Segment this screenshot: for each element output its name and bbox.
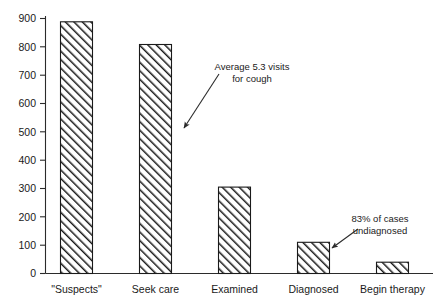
cat-label-diagnosed: Diagnosed — [288, 283, 338, 295]
y-axis-ticks — [40, 19, 46, 274]
y-tick-label-200: 200 — [18, 211, 36, 223]
y-axis-tick-labels: 900 800 700 600 500 400 300 200 100 0 — [18, 12, 36, 279]
cat-label-suspects: "Suspects" — [51, 283, 102, 295]
y-tick-label-400: 400 — [18, 154, 36, 166]
bar-examined[interactable] — [219, 187, 251, 273]
annotation-undiagnosed: 83% of cases undiagnosed — [332, 213, 409, 248]
annotation-undiagnosed-arrow — [332, 229, 358, 248]
cat-label-seek-care: Seek care — [132, 283, 179, 295]
x-axis-category-labels: "Suspects" Seek care Examined Diagnosed … — [51, 283, 425, 295]
annotation-undiagnosed-line2: undiagnosed — [353, 225, 407, 236]
y-tick-label-100: 100 — [18, 239, 36, 251]
bar-diagnosed[interactable] — [298, 242, 330, 273]
bar-chart: 900 800 700 600 500 400 300 200 100 0 "S… — [0, 0, 440, 308]
annotation-avg-visits-line1: Average 5.3 visits — [215, 61, 290, 72]
annotation-undiagnosed-line1: 83% of cases — [351, 213, 408, 224]
bar-seek-care[interactable] — [140, 45, 172, 274]
bar-suspects[interactable] — [61, 22, 93, 274]
cat-label-examined: Examined — [211, 283, 258, 295]
chart-canvas: 900 800 700 600 500 400 300 200 100 0 "S… — [0, 0, 440, 308]
cat-label-begin-therapy: Begin therapy — [360, 283, 426, 295]
y-tick-label-0: 0 — [30, 267, 36, 279]
y-tick-label-900: 900 — [18, 12, 36, 24]
annotation-avg-visits-line2: for cough — [232, 73, 272, 84]
annotation-avg-visits-arrow — [184, 74, 219, 128]
y-tick-label-500: 500 — [18, 126, 36, 138]
bar-begin-therapy[interactable] — [377, 262, 409, 273]
y-tick-label-700: 700 — [18, 69, 36, 81]
annotation-avg-visits: Average 5.3 visits for cough — [184, 61, 290, 128]
y-tick-label-800: 800 — [18, 41, 36, 53]
y-tick-label-600: 600 — [18, 97, 36, 109]
y-tick-label-300: 300 — [18, 182, 36, 194]
